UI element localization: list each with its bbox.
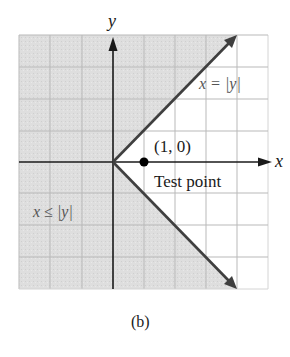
figure-caption: (b) [131,314,150,330]
boundary-equation-label: x = |y| [199,76,241,92]
y-axis-label: y [108,12,116,30]
inequality-graph-figure: y x x = |y| (1, 0) Test point x ≤ |y| (b… [0,0,290,357]
x-axis-arrow-icon [258,158,272,167]
graph-canvas [0,0,290,357]
region-inequality-label: x ≤ |y| [33,204,73,220]
x-axis-label: x [275,152,283,170]
test-point-marker [140,158,149,167]
test-point-caption: Test point [154,173,221,190]
test-point-coordinates: (1, 0) [154,138,191,155]
